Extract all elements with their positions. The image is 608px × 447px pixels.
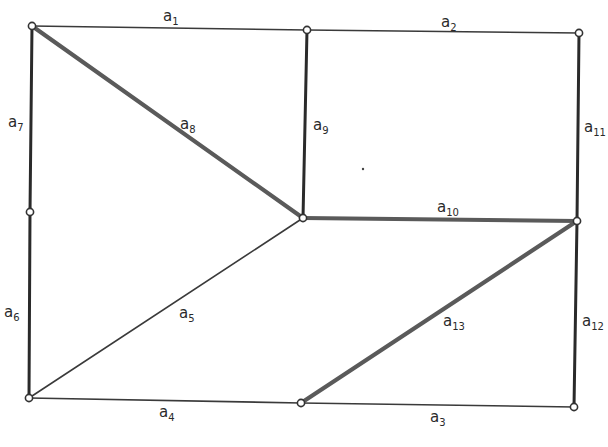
edge-label-a11: a11 [584,118,606,138]
edge-label-a13: a13 [443,312,465,332]
edge-a3 [301,403,574,407]
node-n3 [575,29,582,36]
node-n4 [26,208,33,215]
edge-label-a2: a2 [441,13,457,33]
edge-label-a9: a9 [313,116,329,136]
node-n8 [297,399,304,406]
edge-label-a3: a3 [430,408,446,428]
edge-label-a6: a6 [4,303,20,323]
edge-label-a4: a4 [159,403,175,423]
node-n9 [570,403,577,410]
edge-label-a1: a1 [163,7,179,27]
edge-a5 [29,218,303,398]
node-n7 [25,394,32,401]
edge-a10 [303,218,577,221]
edge-label-a5: a5 [179,304,195,324]
edge-a8 [32,26,303,218]
edge-a7 [30,26,32,212]
edge-label-a12: a12 [582,312,604,332]
edge-a13 [301,221,577,403]
edge-a11 [577,33,579,221]
graph-diagram: a1a2a3a4a5a6a7a8a9a10a11a12a13 [0,0,608,447]
edge-label-a8: a8 [180,115,196,135]
edge-a6 [29,212,30,398]
stray-dots-layer [362,168,364,170]
node-n6 [573,217,580,224]
edge-a12 [574,221,577,407]
edge-label-a7: a7 [8,113,24,133]
edge-label-a10: a10 [437,198,459,218]
node-n1 [28,22,35,29]
edge-a9 [303,30,307,218]
stray-dot [362,168,364,170]
node-n2 [303,26,310,33]
node-n5 [299,214,306,221]
edge-a1 [32,26,307,30]
